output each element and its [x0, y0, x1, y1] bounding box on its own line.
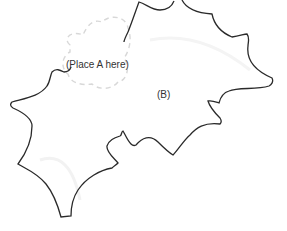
puzzle-diagram: (Place A here) (B): [0, 0, 287, 231]
placeholder-a-outline[interactable]: [63, 17, 130, 88]
piece-b-outline[interactable]: [11, 0, 273, 217]
puzzle-canvas: [0, 0, 287, 231]
shading-line: [40, 158, 80, 200]
shading-line: [150, 38, 250, 70]
piece-b-label: (B): [157, 89, 170, 100]
placeholder-a-label: (Place A here): [66, 59, 129, 70]
